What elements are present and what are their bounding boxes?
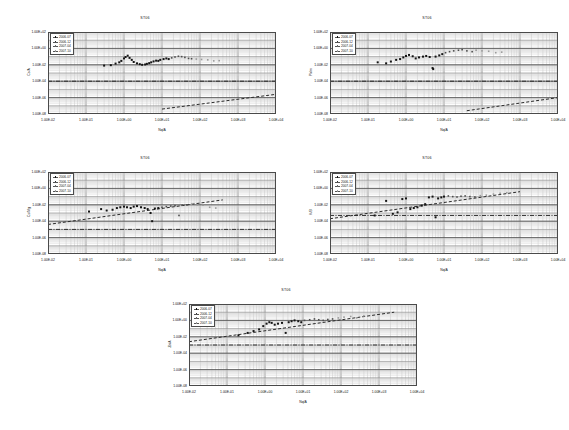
x-tick-label: 1.00E+02 [186, 118, 214, 122]
data-point [412, 55, 414, 57]
legend-item[interactable]: 2007-10 [334, 189, 354, 194]
y-tick-label: 1.00E+02 [157, 302, 187, 306]
data-point [415, 57, 417, 59]
data-point [401, 198, 403, 200]
legend-marker-icon [194, 321, 199, 325]
legend-marker-icon [53, 44, 58, 48]
legend-item[interactable]: 2007-10 [193, 321, 213, 326]
chart-legend[interactable]: 2006-072006-122007-042007-10 [50, 173, 74, 195]
plot-area: 2006-072006-122007-042007-10 [189, 304, 417, 386]
legend-marker-icon [335, 175, 340, 179]
data-point [356, 317, 358, 319]
x-tick-label: 1.00E+03 [224, 258, 252, 262]
data-point [191, 58, 193, 60]
x-tick-label: 1.00E+03 [365, 390, 393, 394]
data-point [327, 319, 329, 321]
legend-item[interactable]: 2007-10 [334, 49, 354, 54]
data-point [429, 56, 431, 58]
data-point [202, 204, 204, 206]
data-point [392, 213, 394, 215]
data-point [397, 211, 399, 213]
data-point [154, 208, 156, 210]
chart-legend[interactable]: 2006-072006-122007-042007-10 [332, 33, 356, 55]
data-point [166, 206, 168, 208]
x-tick-label: 1.00E+01 [430, 118, 458, 122]
data-point [181, 204, 183, 206]
data-point [120, 60, 122, 62]
x-tick-label: 1.00E+03 [506, 118, 534, 122]
data-point [209, 206, 211, 208]
data-point [432, 68, 434, 70]
data-point [501, 51, 503, 53]
data-point [215, 207, 217, 209]
plot-area: 2006-072006-122007-042007-10 [48, 32, 276, 114]
data-point [148, 62, 150, 64]
data-point [314, 318, 316, 320]
data-point [218, 60, 220, 62]
legend-marker-icon [53, 189, 58, 193]
data-point [174, 205, 176, 207]
chart-title: ST06 [147, 288, 425, 292]
y-tick-label: 1.00E-08 [298, 112, 328, 116]
y-tick-label: 1.00E-02 [16, 203, 46, 207]
data-point [127, 55, 129, 57]
x-tick-label: 1.00E-02 [34, 118, 62, 122]
data-point [184, 57, 186, 59]
chart-legend[interactable]: 2006-072006-122007-042007-10 [191, 305, 215, 327]
x-tick-label: 1.00E+00 [392, 118, 420, 122]
data-point [146, 63, 148, 65]
chart-panel-3: ST06Cs/MgNq/A1.00E+021.00E+001.00E-021.0… [6, 156, 284, 284]
data-point [300, 321, 302, 323]
data-point [153, 60, 155, 62]
data-point [385, 200, 387, 202]
data-point [196, 58, 198, 60]
data-point [488, 50, 490, 52]
data-point [405, 197, 407, 199]
data-point [188, 58, 190, 60]
data-point [399, 58, 401, 60]
data-point [493, 193, 495, 195]
chart-legend[interactable]: 2006-072006-122007-042007-10 [50, 33, 74, 55]
x-axis-label: Nq/A [48, 128, 276, 132]
data-point [170, 205, 172, 207]
legend-label: 2007-10 [59, 189, 71, 194]
data-point [262, 325, 264, 327]
data-point [350, 316, 352, 318]
y-tick-label: 1.00E+00 [298, 46, 328, 50]
data-point [297, 320, 299, 322]
chart-panel-2: ST06Pk/mNq/A1.00E+021.00E+001.00E-021.00… [288, 16, 566, 144]
x-tick-label: 1.00E+03 [506, 258, 534, 262]
data-point [363, 315, 365, 317]
x-tick-label: 1.00E+01 [289, 390, 317, 394]
data-point [506, 192, 508, 194]
x-tick-label: 1.00E-01 [72, 258, 100, 262]
legend-marker-icon [53, 175, 58, 179]
data-point [115, 63, 117, 65]
data-point [377, 61, 379, 63]
legend-item[interactable]: 2007-10 [52, 49, 72, 54]
legend-item[interactable]: 2007-10 [52, 189, 72, 194]
x-axis-label: Nq/A [189, 400, 417, 404]
data-point [495, 52, 497, 54]
data-point [458, 49, 460, 51]
data-point [110, 64, 112, 66]
data-point [338, 317, 340, 319]
data-point [191, 203, 193, 205]
data-point [253, 330, 255, 332]
x-tick-label: 1.00E+02 [468, 118, 496, 122]
legend-label: 2007-10 [200, 321, 212, 326]
charts-sheet: ST06Cs/ANq/A1.00E+021.00E+001.00E-021.00… [0, 0, 569, 430]
y-tick-label: 1.00E+02 [16, 170, 46, 174]
data-point [277, 323, 279, 325]
y-tick-label: 1.00E-06 [16, 236, 46, 240]
data-point [171, 57, 173, 59]
y-tick-label: 1.00E-04 [157, 351, 187, 355]
legend-marker-icon [194, 316, 199, 320]
data-point [294, 319, 296, 321]
data-point [438, 54, 440, 56]
x-tick-label: 1.00E+00 [251, 390, 279, 394]
data-point [112, 209, 114, 211]
x-tick-label: 1.00E-01 [354, 118, 382, 122]
data-point [281, 322, 283, 324]
chart-legend[interactable]: 2006-072006-122007-042007-10 [332, 173, 356, 195]
